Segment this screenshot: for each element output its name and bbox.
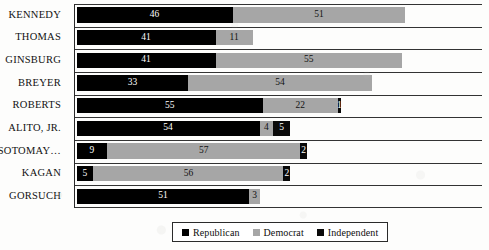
bar-segment-republican: 5 (77, 166, 94, 181)
bar-value-label: 3 (252, 191, 257, 201)
row-divider (75, 117, 482, 118)
bar-segment-democrat: 55 (216, 53, 403, 68)
chart-row: BREYER3354 (75, 72, 482, 95)
category-label: BREYER (0, 77, 61, 88)
bar-segment-democrat: 54 (188, 75, 371, 90)
category-label: THOMAS (0, 31, 61, 42)
legend-swatch-icon (253, 229, 260, 236)
legend-label: Democrat (264, 227, 304, 238)
bar-segment-democrat: 11 (216, 30, 253, 45)
bar-value-label: 55 (304, 55, 314, 65)
bar-segment-democrat: 3 (249, 189, 259, 204)
row-divider (75, 140, 482, 141)
bar-segment-democrat: 22 (263, 98, 338, 113)
bar-segment-independent: 2 (300, 143, 307, 158)
legend-item-democrat[interactable]: Democrat (253, 227, 304, 238)
bar-segment-democrat: 57 (107, 143, 300, 158)
category-label: GINSBURG (0, 54, 61, 65)
bar-value-label: 1 (337, 101, 342, 111)
chart-row: GINSBURG4155 (75, 49, 482, 72)
bar-value-label: 41 (141, 55, 151, 65)
bar-value-label: 54 (163, 123, 173, 133)
bar-segment-republican: 41 (77, 30, 216, 45)
bar-value-label: 2 (301, 146, 306, 156)
bar-segment-republican: 41 (77, 53, 216, 68)
legend-item-independent[interactable]: Independent (317, 227, 379, 238)
chart-row: GORSUCH513 (75, 185, 482, 208)
row-divider (75, 49, 482, 50)
category-label: ALITO, JR. (0, 122, 61, 133)
bar-value-label: 41 (141, 33, 151, 43)
row-divider (75, 27, 482, 28)
chart-row: ROBERTS55221 (75, 95, 482, 118)
stacked-bar: 9572 (77, 143, 308, 158)
bar-value-label: 51 (158, 191, 168, 201)
chart-legend: RepublicanDemocratIndependent (172, 222, 388, 242)
row-divider (75, 207, 482, 208)
bar-value-label: 2 (284, 169, 289, 179)
legend-label: Independent (328, 227, 379, 238)
row-divider (75, 163, 482, 164)
bar-value-label: 56 (184, 169, 194, 179)
row-divider (75, 4, 482, 5)
bar-value-label: 51 (314, 10, 324, 20)
category-label: ROBERTS (0, 99, 61, 110)
bar-value-label: 55 (165, 101, 175, 111)
category-label: GORSUCH (0, 190, 61, 201)
plot-area: KENNEDY4651THOMAS4111GINSBURG4155BREYER3… (74, 4, 481, 208)
bar-value-label: 5 (83, 169, 88, 179)
legend-swatch-icon (317, 229, 324, 236)
bar-value-label: 4 (264, 123, 269, 133)
chart-row: KENNEDY4651 (75, 4, 482, 27)
bar-segment-republican: 51 (77, 189, 250, 204)
bar-segment-republican: 9 (77, 143, 108, 158)
bar-value-label: 54 (275, 78, 285, 88)
bar-segment-republican: 55 (77, 98, 264, 113)
bar-segment-independent: 1 (338, 98, 341, 113)
bar-value-label: 22 (296, 101, 306, 111)
legend-label: Republican (193, 227, 240, 238)
category-label: KENNEDY (0, 9, 61, 20)
bar-value-label: 9 (89, 146, 94, 156)
bar-segment-democrat: 4 (260, 121, 274, 136)
bar-value-label: 57 (199, 146, 209, 156)
bar-segment-democrat: 56 (93, 166, 283, 181)
bar-segment-independent: 5 (273, 121, 290, 136)
chart-row: ALITO, JR.5445 (75, 117, 482, 140)
bar-value-label: 5 (279, 123, 284, 133)
stacked-bar: 5562 (77, 166, 291, 181)
stacked-bar: 5445 (77, 121, 291, 136)
bar-segment-republican: 46 (77, 7, 233, 22)
legend-swatch-icon (182, 229, 189, 236)
stacked-bar-chart: KENNEDY4651THOMAS4111GINSBURG4155BREYER3… (0, 0, 489, 250)
bar-value-label: 11 (230, 33, 239, 43)
stacked-bar: 4155 (77, 53, 403, 68)
bar-segment-republican: 54 (77, 121, 260, 136)
stacked-bar: 3354 (77, 75, 372, 90)
category-label: SOTOMAY… (0, 145, 61, 156)
row-divider (75, 72, 482, 73)
chart-row: SOTOMAY…9572 (75, 140, 482, 163)
bar-value-label: 46 (150, 10, 160, 20)
row-divider (75, 95, 482, 96)
bar-segment-democrat: 51 (233, 7, 406, 22)
bar-segment-independent: 2 (283, 166, 290, 181)
stacked-bar: 4651 (77, 7, 406, 22)
chart-row: KAGAN5562 (75, 163, 482, 186)
legend-item-republican[interactable]: Republican (182, 227, 240, 238)
row-divider (75, 185, 482, 186)
stacked-bar: 513 (77, 189, 260, 204)
chart-row: THOMAS4111 (75, 27, 482, 50)
bar-segment-republican: 33 (77, 75, 189, 90)
stacked-bar: 55221 (77, 98, 342, 113)
category-label: KAGAN (0, 167, 61, 178)
stacked-bar: 4111 (77, 30, 253, 45)
bar-value-label: 33 (128, 78, 138, 88)
